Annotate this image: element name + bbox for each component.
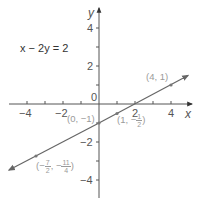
x-tick-m4: −4 <box>19 108 32 119</box>
y-tick-m4: −4 <box>80 175 93 186</box>
point-label-1-prefix: (1, − <box>117 114 136 125</box>
y-tick-m2: −2 <box>80 137 93 148</box>
point-0-m1 <box>97 121 100 124</box>
point-label-m72-suffix: ) <box>71 160 74 171</box>
point-label-1-mhalf: (1, −12) <box>117 113 145 128</box>
point-label-4-1: (4, 1) <box>146 72 168 82</box>
point-label-m72-prefix: (− <box>36 160 45 171</box>
point-label-0-m1: (0, −1) <box>67 114 95 124</box>
fraction-num: 11 <box>61 159 70 167</box>
y-tick-4: 4 <box>87 23 93 34</box>
point-label-m72-mid: , − <box>51 160 62 171</box>
x-tick-4: 4 <box>168 108 174 119</box>
point-label-1-suffix: ) <box>142 114 145 125</box>
equation-label: x − 2y = 2 <box>20 42 68 54</box>
fraction-den: 4 <box>61 167 70 174</box>
point-4-1 <box>169 83 172 86</box>
coordinate-plane <box>0 0 201 206</box>
fraction-eleven-quarters: 114 <box>61 159 70 174</box>
x-axis-label: x <box>185 108 191 120</box>
point-label-m72-m114: (−72, −114) <box>36 159 74 174</box>
point-m72-m114 <box>34 154 37 157</box>
x-tick-0: 0 <box>91 92 97 103</box>
y-axis-label: y <box>88 7 94 19</box>
y-tick-2: 2 <box>87 61 93 72</box>
x-tick-m2: −2 <box>55 108 68 119</box>
